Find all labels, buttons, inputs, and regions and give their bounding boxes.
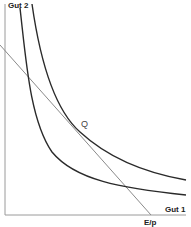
budget-line (0, 45, 151, 215)
indifference-curve-outer (32, 4, 186, 180)
x-axis-label: Gut 1 (165, 205, 186, 214)
tangency-point-label: Q (81, 119, 88, 129)
x-intercept-label: E/p (144, 218, 157, 227)
indifference-curve-inner (20, 8, 186, 195)
diagram: Gut 2 Gut 1 E/p E/ Q (0, 0, 191, 227)
y-axis-label: Gut 2 (8, 1, 29, 10)
